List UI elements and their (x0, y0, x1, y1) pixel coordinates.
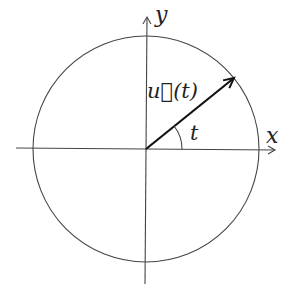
angle-label: t (190, 121, 199, 145)
y-axis-label: y (154, 2, 168, 27)
y-axis (145, 17, 147, 284)
unit-circle-diagram: y x u⃗(t) t (0, 0, 292, 303)
x-axis-label: x (266, 123, 279, 148)
vector-label: u⃗(t) (147, 79, 198, 103)
angle-arc (174, 126, 182, 150)
